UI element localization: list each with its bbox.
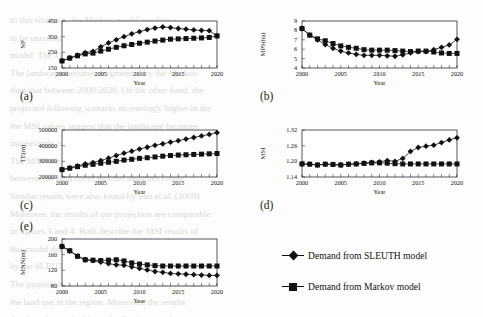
data-point-square <box>300 26 305 31</box>
y-tick-label: 9 <box>258 17 297 24</box>
x-tick-label: 2010 <box>126 70 154 77</box>
legend-marker-square-icon <box>282 282 304 292</box>
data-point-square <box>207 264 212 269</box>
data-point-square <box>106 47 111 52</box>
data-point-square <box>60 167 65 172</box>
x-tick-label: 2010 <box>366 179 394 186</box>
data-point-square <box>122 258 127 263</box>
x-tick-label: 2015 <box>164 288 192 295</box>
data-point-square <box>431 161 436 166</box>
data-point-square <box>75 53 80 58</box>
chart-panel-c: 2000003000004000005000002000200520102015… <box>18 123 223 199</box>
data-point-square <box>176 153 181 158</box>
data-point-square <box>215 151 220 156</box>
data-point-square <box>137 41 142 46</box>
data-point-square <box>300 161 305 166</box>
data-point-square <box>338 162 343 167</box>
data-point-square <box>60 58 65 63</box>
legend-label: Demand from Markov model <box>308 281 421 292</box>
x-tick-label: 2005 <box>87 179 115 186</box>
x-tick-label: 2010 <box>126 179 154 186</box>
data-point-square <box>83 163 88 168</box>
data-point-square <box>168 153 173 158</box>
data-point-square <box>122 43 127 48</box>
data-point-square <box>331 41 336 46</box>
x-tick-label: 2020 <box>203 179 231 186</box>
data-point-square <box>184 264 189 269</box>
data-point-square <box>106 258 111 263</box>
data-point-square <box>431 50 436 55</box>
data-point-square <box>129 42 134 47</box>
x-tick-label: 2000 <box>48 70 76 77</box>
data-point-square <box>315 36 320 41</box>
y-axis-title: TE(m) <box>19 133 26 173</box>
x-axis-title: Year <box>302 188 457 195</box>
data-point-square <box>168 37 173 42</box>
data-point-square <box>447 51 452 56</box>
data-point-square <box>331 162 336 167</box>
data-point-square <box>168 264 173 269</box>
data-point-square <box>75 254 80 259</box>
x-tick-label: 2000 <box>288 179 316 186</box>
data-point-square <box>191 152 196 157</box>
panel-tag-e: (e) <box>20 220 33 232</box>
data-point-square <box>145 155 150 160</box>
data-point-square <box>323 162 328 167</box>
y-tick-label: 1.32 <box>258 126 297 133</box>
data-point-square <box>400 49 405 54</box>
y-axis-title: MPS(ha) <box>259 24 266 64</box>
x-tick-label: 2020 <box>443 179 471 186</box>
chart-panel-a: 15025035045020002005201020152020YearNP <box>18 14 223 90</box>
data-point-square <box>315 162 320 167</box>
x-tick-label: 2005 <box>327 70 355 77</box>
data-point-square <box>416 161 421 166</box>
data-point-square <box>377 48 382 53</box>
data-point-square <box>106 160 111 165</box>
x-tick-label: 2005 <box>87 70 115 77</box>
data-point-square <box>408 161 413 166</box>
data-point-square <box>393 161 398 166</box>
data-point-square <box>439 50 444 55</box>
data-point-square <box>67 166 72 171</box>
panel-tag-a: (a) <box>20 90 33 102</box>
x-tick-label: 2005 <box>327 179 355 186</box>
data-point-square <box>408 49 413 54</box>
data-point-square <box>91 258 96 263</box>
x-axis-title: Year <box>62 297 217 304</box>
data-point-square <box>207 151 212 156</box>
data-point-square <box>83 51 88 56</box>
panel-tag-c: (c) <box>20 199 33 211</box>
data-point-square <box>98 49 103 54</box>
data-point-square <box>98 161 103 166</box>
data-point-square <box>98 258 103 263</box>
data-point-square <box>145 262 150 267</box>
data-point-square <box>122 158 127 163</box>
data-point-square <box>199 35 204 40</box>
figure-container: 15025035045020002005201020152020YearNP(a… <box>0 0 483 317</box>
data-point-square <box>354 46 359 51</box>
data-point-square <box>83 257 88 262</box>
data-point-square <box>307 162 312 167</box>
data-point-square <box>160 38 165 43</box>
legend-marker-diamond-icon <box>282 251 304 261</box>
data-point-square <box>385 48 390 53</box>
x-tick-label: 2015 <box>404 70 432 77</box>
data-point-square <box>346 45 351 50</box>
x-tick-label: 2015 <box>164 70 192 77</box>
data-point-square <box>191 264 196 269</box>
data-point-square <box>416 49 421 54</box>
data-point-square <box>424 49 429 54</box>
data-point-square <box>129 260 134 265</box>
x-tick-label: 2010 <box>366 70 394 77</box>
data-point-square <box>215 264 220 269</box>
legend-label: Demand from SLEUTH model <box>308 250 427 261</box>
x-tick-label: 2015 <box>404 179 432 186</box>
data-point-square <box>455 51 460 56</box>
data-point-square <box>354 161 359 166</box>
data-point-square <box>377 160 382 165</box>
legend-item: Demand from SLEUTH model <box>282 250 427 261</box>
data-point-square <box>323 38 328 43</box>
data-point-square <box>191 36 196 41</box>
data-point-square <box>153 154 158 159</box>
data-point-square <box>160 154 165 159</box>
